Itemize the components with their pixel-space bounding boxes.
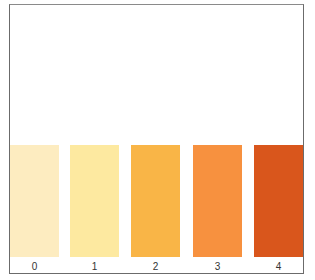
swatch-2 xyxy=(131,145,180,257)
x-tick-label-1: 1 xyxy=(70,261,119,273)
swatch-0 xyxy=(10,145,59,257)
chart-frame: 0 1 2 3 4 xyxy=(9,4,304,274)
x-tick-label-4: 4 xyxy=(254,261,303,273)
x-tick-label-3: 3 xyxy=(193,261,242,273)
swatch-4 xyxy=(254,145,303,257)
swatch-3 xyxy=(193,145,242,257)
swatch-1 xyxy=(70,145,119,257)
x-tick-label-2: 2 xyxy=(131,261,180,273)
x-tick-label-0: 0 xyxy=(10,261,59,273)
